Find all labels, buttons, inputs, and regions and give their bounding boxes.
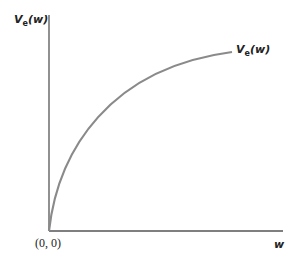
y-axis-label: Ve(w) <box>14 13 48 28</box>
value-curve <box>49 52 232 231</box>
curve-label: Ve(w) <box>236 43 270 58</box>
origin-label: (0, 0) <box>35 236 61 251</box>
diagram-canvas <box>0 0 297 259</box>
x-axis-label: w <box>274 238 284 251</box>
